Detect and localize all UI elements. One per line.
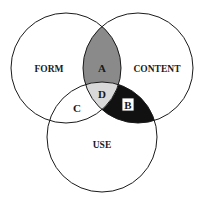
content-label: CONTENT xyxy=(134,64,182,74)
venn-svg: FORM CONTENT USE A B C D xyxy=(0,0,204,199)
region-d-label: D xyxy=(98,88,106,100)
region-b-label: B xyxy=(124,99,132,111)
form-label: FORM xyxy=(34,64,63,74)
use-label: USE xyxy=(93,140,111,150)
venn-diagram: FORM CONTENT USE A B C D xyxy=(0,0,204,199)
region-c-label: C xyxy=(73,102,81,114)
region-a-label: A xyxy=(98,62,106,74)
